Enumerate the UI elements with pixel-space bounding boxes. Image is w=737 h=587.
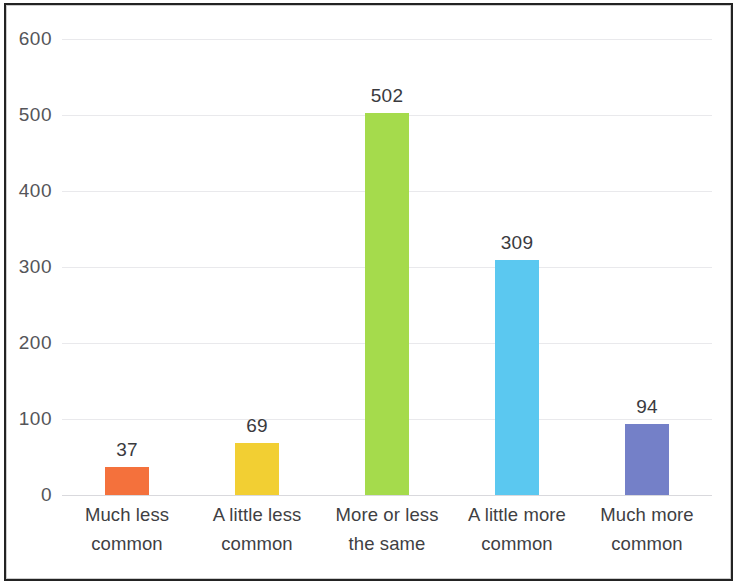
x-label-line-2: common (54, 529, 200, 558)
bar[interactable] (235, 443, 279, 495)
x-axis: Much lesscommonA little lesscommonMore o… (62, 500, 712, 572)
bar[interactable] (105, 467, 149, 495)
x-axis-category-label: Much morecommon (574, 500, 720, 558)
bar[interactable] (625, 424, 669, 495)
x-axis-category-label: A little morecommon (444, 500, 590, 558)
y-axis-tick-label: 400 (0, 180, 52, 202)
x-label-line-2: common (574, 529, 720, 558)
y-axis-tick-label: 600 (0, 28, 52, 50)
bar-chart-figure: 0100200300400500600 376950230994 Much le… (0, 0, 737, 587)
bar-value-label: 309 (501, 232, 534, 254)
bar-group: 309 (452, 39, 582, 495)
x-label-line-1: More or less (314, 500, 460, 529)
x-label-line-2: common (444, 529, 590, 558)
x-axis-category-label: A little lesscommon (184, 500, 330, 558)
bar[interactable] (365, 113, 409, 495)
bar-value-label: 94 (636, 396, 658, 418)
x-axis-category-label: Much lesscommon (54, 500, 200, 558)
x-label-line-1: A little less (184, 500, 330, 529)
bar[interactable] (495, 260, 539, 495)
y-axis-tick-label: 300 (0, 256, 52, 278)
plot-area: 376950230994 (62, 39, 712, 495)
y-axis-tick-label: 100 (0, 408, 52, 430)
y-axis-tick-label: 200 (0, 332, 52, 354)
y-axis-tick-label: 500 (0, 104, 52, 126)
bar-value-label: 37 (116, 439, 138, 461)
x-label-line-2: the same (314, 529, 460, 558)
bar-group: 69 (192, 39, 322, 495)
y-axis-tick-label: 0 (0, 484, 52, 506)
bar-group: 502 (322, 39, 452, 495)
bar-value-label: 502 (371, 85, 404, 107)
x-label-line-1: Much less (54, 500, 200, 529)
x-label-line-2: common (184, 529, 330, 558)
bar-group: 94 (582, 39, 712, 495)
bar-value-label: 69 (246, 415, 268, 437)
x-label-line-1: A little more (444, 500, 590, 529)
bar-group: 37 (62, 39, 192, 495)
gridline-0 (62, 495, 712, 496)
y-axis: 0100200300400500600 (0, 39, 52, 495)
x-label-line-1: Much more (574, 500, 720, 529)
x-axis-category-label: More or lessthe same (314, 500, 460, 558)
